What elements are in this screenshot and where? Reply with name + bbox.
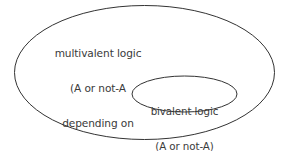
inner-set-ellipse-bivalent-logic bbox=[132, 76, 237, 112]
outer-set-ellipse-multivalent-logic bbox=[15, 6, 275, 140]
diagram-shape-layer bbox=[0, 0, 288, 151]
diagram-canvas: multivalent logic (A or not-A depending … bbox=[0, 0, 288, 151]
